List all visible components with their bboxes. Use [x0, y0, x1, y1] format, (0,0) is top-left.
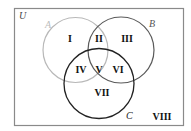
set-b-label: B — [149, 18, 155, 29]
region-ii-label: II — [95, 33, 103, 44]
region-viii-label: VIII — [153, 111, 172, 122]
set-c-label: C — [126, 110, 133, 121]
region-i-label: I — [68, 33, 72, 44]
region-vii-label: VII — [94, 87, 109, 98]
venn-diagram: U A B C I II III IV V VI VII VIII — [0, 0, 191, 131]
region-v-label: V — [95, 64, 103, 75]
region-iv-label: IV — [75, 64, 87, 75]
universe-label: U — [19, 10, 27, 21]
region-iii-label: III — [121, 33, 133, 44]
region-vi-label: VI — [112, 64, 123, 75]
set-a-label: A — [44, 19, 52, 30]
